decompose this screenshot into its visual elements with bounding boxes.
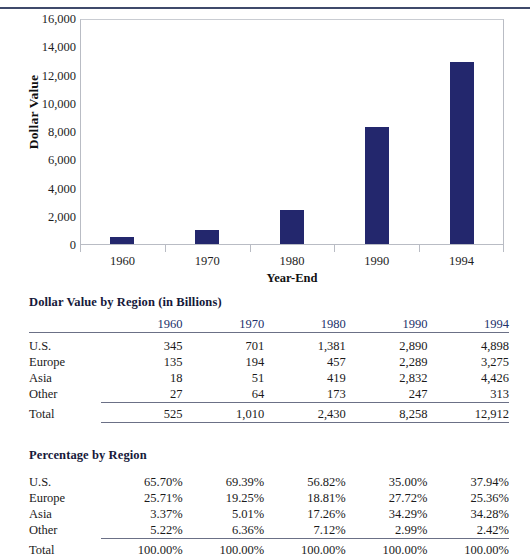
table-row: Other2764173247313 [29,386,509,403]
pct-cell: 2.99% [346,522,428,539]
table-row: Europe25.71%19.25%18.81%27.72%25.36% [29,490,509,506]
pct-cell: 34.29% [346,506,428,522]
percentage-table: U.S.65.70%69.39%56.82%35.00%37.94%Europe… [29,469,509,555]
pct-cell: 6.36% [183,522,265,539]
y-tick-label: 12,000 [18,69,76,82]
bar-1980 [280,210,304,244]
dollar-cell: 18 [101,370,183,386]
y-tick-label: 2,000 [18,211,76,224]
dollar-cell: 135 [101,354,183,370]
dollar-cell: 51 [183,370,265,386]
y-tick-label: 10,000 [18,98,76,111]
pct-cell: 5.01% [183,506,265,522]
dollar-total-cell: 525 [101,403,183,423]
dollar-value-table-block: Dollar Value by Region (in Billions) 196… [29,295,509,429]
dollar-total-label: Total [29,403,101,423]
x-tick-mark [503,245,504,252]
pct-cell: 35.00% [346,469,428,490]
bar-chart-figure: Dollar Value 02,0004,0006,0008,00010,000… [0,12,530,284]
bar-1970 [195,230,219,244]
pct-row-label: Europe [29,490,101,506]
pct-table-body: U.S.65.70%69.39%56.82%35.00%37.94%Europe… [29,469,509,555]
dollar-cell: 2,890 [346,333,428,355]
pct-cell: 3.37% [101,506,183,522]
dollar-cell: 345 [101,333,183,355]
table-row: Asia3.37%5.01%17.26%34.29%34.28% [29,506,509,522]
pct-cell: 27.72% [346,490,428,506]
rule-cell [101,423,183,430]
x-tick-label: 1994 [420,254,504,269]
x-tick-label: 1960 [80,254,164,269]
percentage-table-block: Percentage by Region U.S.65.70%69.39%56.… [29,448,509,555]
table-row: U.S.65.70%69.39%56.82%35.00%37.94% [29,469,509,490]
x-tick-label: 1970 [165,254,249,269]
y-axis-tick-labels: 02,0004,0006,0008,00010,00012,00014,0001… [18,12,76,244]
rule-cell [427,423,509,430]
dollar-total-cell: 1,010 [183,403,265,423]
pct-cell: 25.36% [427,490,509,506]
pct-cell: 2.42% [427,522,509,539]
dollar-cell: 4,426 [427,370,509,386]
x-tick-mark [334,245,335,252]
dollar-cell: 3,275 [427,354,509,370]
dollar-cell: 4,898 [427,333,509,355]
table-row: U.S.3457011,3812,8904,898 [29,333,509,355]
pct-total-cell: 100.00% [264,539,346,555]
y-tick-label: 4,000 [18,182,76,195]
dollar-table-caption: Dollar Value by Region (in Billions) [29,295,509,310]
table-row: Other5.22%6.36%7.12%2.99%2.42% [29,522,509,539]
x-tick-mark [165,245,166,252]
bar-1994 [450,62,474,244]
rule-cell [346,423,428,430]
dollar-cell: 313 [427,386,509,403]
pct-cell: 34.28% [427,506,509,522]
dollar-cell: 173 [264,386,346,403]
table-row: Europe1351944572,2893,275 [29,354,509,370]
pct-cell: 19.25% [183,490,265,506]
table-row: Asia18514192,8324,426 [29,370,509,386]
dollar-row-label: U.S. [29,333,101,355]
dollar-row-label: Asia [29,370,101,386]
spacer-cell [29,423,101,430]
dollar-row-label: Europe [29,354,101,370]
pct-total-cell: 100.00% [427,539,509,555]
pct-cell: 69.39% [183,469,265,490]
pct-cell: 17.26% [264,506,346,522]
y-tick-label: 0 [18,239,76,252]
bar-1990 [365,127,389,244]
x-tick-label: 1980 [250,254,334,269]
dollar-bottom-rule [29,423,509,430]
x-tick-mark [419,245,420,252]
dollar-table-body: U.S.3457011,3812,8904,898Europe135194457… [29,333,509,430]
dollar-col-header-1980: 1980 [264,316,346,333]
pct-cell: 56.82% [264,469,346,490]
pct-cell: 65.70% [101,469,183,490]
x-tick-mark [250,245,251,252]
pct-row-label: Other [29,522,101,539]
dollar-table-corner-header [29,316,101,333]
pct-total-label: Total [29,539,101,555]
dollar-col-header-1960: 1960 [101,316,183,333]
dollar-table-header-row: 19601970198019901994 [29,316,509,333]
plot-area [80,19,504,245]
pct-total-row: Total100.00%100.00%100.00%100.00%100.00% [29,539,509,555]
dollar-cell: 1,381 [264,333,346,355]
pct-total-cell: 100.00% [346,539,428,555]
dollar-total-cell: 12,912 [427,403,509,423]
pct-cell: 25.71% [101,490,183,506]
bar-1960 [110,237,134,244]
x-axis-tick-marks [80,245,504,252]
y-tick-label: 14,000 [18,41,76,54]
dollar-col-header-1970: 1970 [183,316,265,333]
y-tick-label: 8,000 [18,126,76,139]
pct-cell: 7.12% [264,522,346,539]
y-tick-label: 16,000 [18,13,76,26]
dollar-cell: 419 [264,370,346,386]
x-axis-tick-labels: 19601970198019901994 [80,254,504,272]
dollar-total-cell: 8,258 [346,403,428,423]
y-tick-label: 6,000 [18,154,76,167]
pct-row-label: U.S. [29,469,101,490]
pct-cell: 5.22% [101,522,183,539]
pct-row-label: Asia [29,506,101,522]
dollar-cell: 27 [101,386,183,403]
